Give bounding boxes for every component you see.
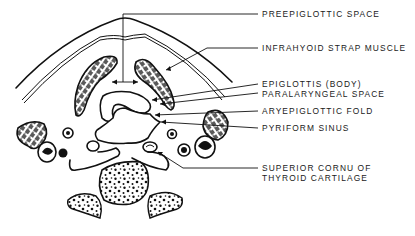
vertebral-body [99,162,148,205]
label-epiglottis-body: EPIGLOTTIS (BODY) [262,79,362,89]
label-preepiglottic-space: PREEPIGLOTTIC SPACE [262,9,380,19]
skin-outline [16,18,232,88]
fascia-line-outer [22,34,225,100]
left-jugular-vein [59,149,68,158]
right-superior-cornu [143,142,157,152]
label-infrahyoid-strap-muscle: INFRAHYOID STRAP MUSCLE [262,43,406,53]
left-superior-cornu [87,141,99,151]
label-aryepiglottic-fold: ARYEPIGLOTTIC FOLD [262,106,373,116]
leader-infrahyoid [166,48,258,70]
larynx-cross-section-diagram [0,0,415,236]
label-superior-cornu-line1: SUPERIOR CORNU OF [262,163,371,173]
leader-paralaryngeal [160,93,258,104]
left-transverse-process [68,194,102,218]
label-pyriform-sinus: PYRIFORM SINUS [262,123,350,133]
right-transverse-process [148,192,182,218]
label-superior-cornu-line2: THYROID CARTILAGE [262,173,368,183]
label-paralaryngeal-space: PARALARYNGEAL SPACE [262,89,385,99]
